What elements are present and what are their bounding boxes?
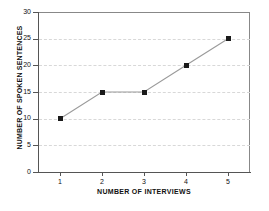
series-line-layer [0,0,269,211]
data-point-5 [226,36,231,41]
data-point-2 [100,90,105,95]
data-point-4 [184,63,189,68]
series-polyline [60,39,228,119]
data-point-1 [58,116,63,121]
y-axis-label: NUMBER OF SPOKEN SENTENCES [16,8,23,168]
line-chart: 30 25 20 15 10 5 0 1 2 3 4 5 [0,0,269,211]
data-point-3 [142,90,147,95]
x-axis-label: NUMBER OF INTERVIEWS [38,188,250,195]
